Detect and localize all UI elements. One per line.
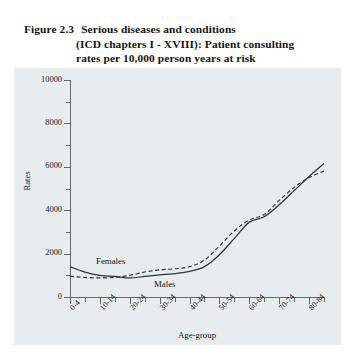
title-text-2: (ICD chapters I - XVIII): Patient consul… [76, 38, 294, 50]
title-text-1: Serious diseases and conditions [81, 23, 236, 35]
title-line-2: (ICD chapters I - XVIII): Patient consul… [24, 37, 340, 52]
series-layer [14, 68, 341, 345]
plot-panel: 0200040006000800010000 Rates 0-410-1420-… [14, 68, 341, 345]
title-line-3: rates per 10,000 person years at risk [24, 51, 340, 66]
title-line-1: Figure 2.3Serious diseases and condition… [24, 22, 340, 37]
series-label-males: Males [154, 279, 176, 289]
figure-number: Figure 2.3 [24, 23, 81, 35]
figure-container: Figure 2.3Serious diseases and condition… [0, 0, 355, 362]
series-label-females: Females [96, 256, 125, 266]
title-text-3: rates per 10,000 person years at risk [76, 52, 256, 64]
figure-title: Figure 2.3Serious diseases and condition… [24, 22, 340, 66]
